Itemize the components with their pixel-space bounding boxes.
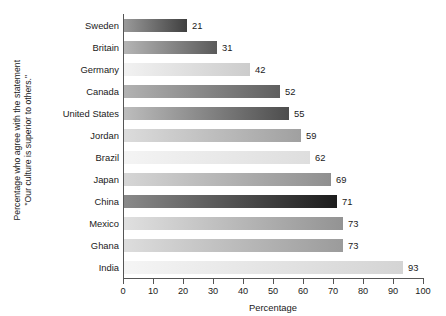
category-label: Japan [41,174,119,185]
bar [124,129,301,142]
x-tick-label: 80 [348,286,378,297]
x-tick [123,279,124,284]
bar-value-label: 71 [342,195,352,208]
bar [124,239,343,252]
bar [124,107,289,120]
x-tick [213,279,214,284]
x-tick-label: 50 [258,286,288,297]
bar [124,63,250,76]
x-tick-label: 40 [228,286,258,297]
x-tick-label: 20 [168,286,198,297]
bar-value-label: 73 [348,217,358,230]
category-label: United States [41,108,119,119]
bar [124,195,337,208]
x-tick-label: 70 [318,286,348,297]
x-tick-label: 30 [198,286,228,297]
y-axis-title-line1: Percentage who agree with the statement [12,60,22,221]
category-label: Jordan [41,130,119,141]
bar-value-label: 73 [348,239,358,252]
category-label: Britain [41,42,119,53]
bar [124,173,331,186]
x-tick-label: 0 [108,286,138,297]
bar-value-label: 42 [255,63,265,76]
x-tick-label: 10 [138,286,168,297]
bar [124,151,310,164]
bar-value-label: 62 [315,151,325,164]
bar [124,85,280,98]
x-tick [333,279,334,284]
x-tick-label: 60 [288,286,318,297]
bar-value-label: 55 [294,107,304,120]
x-tick-label: 90 [378,286,408,297]
x-tick [393,279,394,284]
bar [124,261,403,274]
x-tick [303,279,304,284]
x-tick [423,279,424,284]
x-tick [183,279,184,284]
category-label: Germany [41,64,119,75]
category-label: China [41,196,119,207]
bar-value-label: 93 [408,261,418,274]
x-tick [243,279,244,284]
category-axis-labels: SwedenBritainGermanyCanadaUnited StatesJ… [44,14,122,278]
x-tick [273,279,274,284]
plot-area: 213142525559626971737393 010203040506070… [123,14,423,278]
x-tick-label: 100 [408,286,438,297]
category-label: Brazil [41,152,119,163]
category-label: Canada [41,86,119,97]
category-label: Sweden [41,20,119,31]
bar [124,217,343,230]
bar [124,19,187,32]
x-axis-title: Percentage [123,302,423,313]
bar-chart-figure: Percentage who agree with the statement … [0,0,446,316]
category-label: India [41,262,119,273]
y-axis-title: Percentage who agree with the statement … [0,0,46,280]
bar-value-label: 59 [306,129,316,142]
bar [124,41,217,54]
bar-value-label: 69 [336,173,346,186]
x-tick [153,279,154,284]
category-label: Mexico [41,218,119,229]
bar-value-label: 31 [222,41,232,54]
y-axis-title-line2: "Our culture is superior to others." [23,60,34,221]
bar-value-label: 21 [192,19,202,32]
bar-value-label: 52 [285,85,295,98]
x-tick [363,279,364,284]
category-label: Ghana [41,240,119,251]
